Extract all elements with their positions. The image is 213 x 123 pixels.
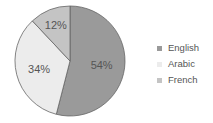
slice-label: 34% bbox=[28, 63, 50, 75]
legend-item-english: English bbox=[157, 40, 199, 56]
slice-label: 12% bbox=[45, 19, 67, 31]
legend: English Arabic French bbox=[157, 40, 199, 88]
legend-label: English bbox=[168, 42, 199, 54]
legend-label: Arabic bbox=[168, 58, 195, 70]
pie-chart: 54%34%12% bbox=[0, 0, 140, 123]
legend-item-arabic: Arabic bbox=[157, 56, 199, 72]
legend-label: French bbox=[168, 74, 198, 86]
legend-swatch-french bbox=[157, 78, 162, 83]
legend-swatch-arabic bbox=[157, 62, 162, 67]
legend-item-french: French bbox=[157, 72, 199, 88]
legend-swatch-english bbox=[157, 46, 162, 51]
slice-label: 54% bbox=[91, 59, 113, 71]
